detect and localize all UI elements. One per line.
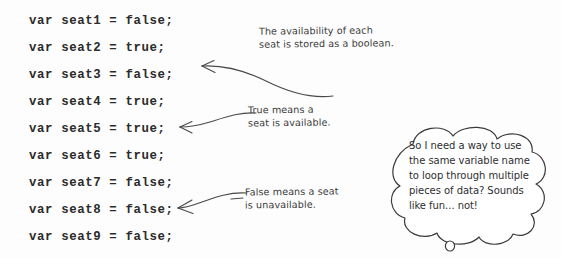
page-canvas: var seat1 = false; var seat2 = true; var…	[0, 0, 561, 258]
code-line: var seat8 = false;	[29, 197, 229, 224]
thought-bubble-text: So I need a way to use the same variable…	[409, 139, 537, 214]
annotation-true-note: True means a seat is available.	[248, 104, 331, 130]
code-line: var seat1 = false;	[29, 8, 229, 35]
code-line: var seat4 = true;	[29, 89, 229, 116]
arrow-tail-dash-icon	[231, 196, 245, 202]
code-line: var seat7 = false;	[29, 170, 229, 197]
code-listing: var seat1 = false; var seat2 = true; var…	[29, 8, 229, 251]
annotation-availability-note: The availability of each seat is stored …	[259, 24, 394, 51]
code-line: var seat2 = true;	[29, 35, 229, 62]
code-line: var seat9 = false;	[29, 224, 229, 251]
code-line: var seat6 = true;	[29, 143, 229, 170]
code-line: var seat3 = false;	[29, 62, 229, 89]
annotation-false-note: False means a seat is unavailable.	[245, 186, 339, 212]
thought-bubble: So I need a way to use the same variable…	[383, 122, 555, 258]
code-line: var seat5 = true;	[29, 116, 229, 143]
